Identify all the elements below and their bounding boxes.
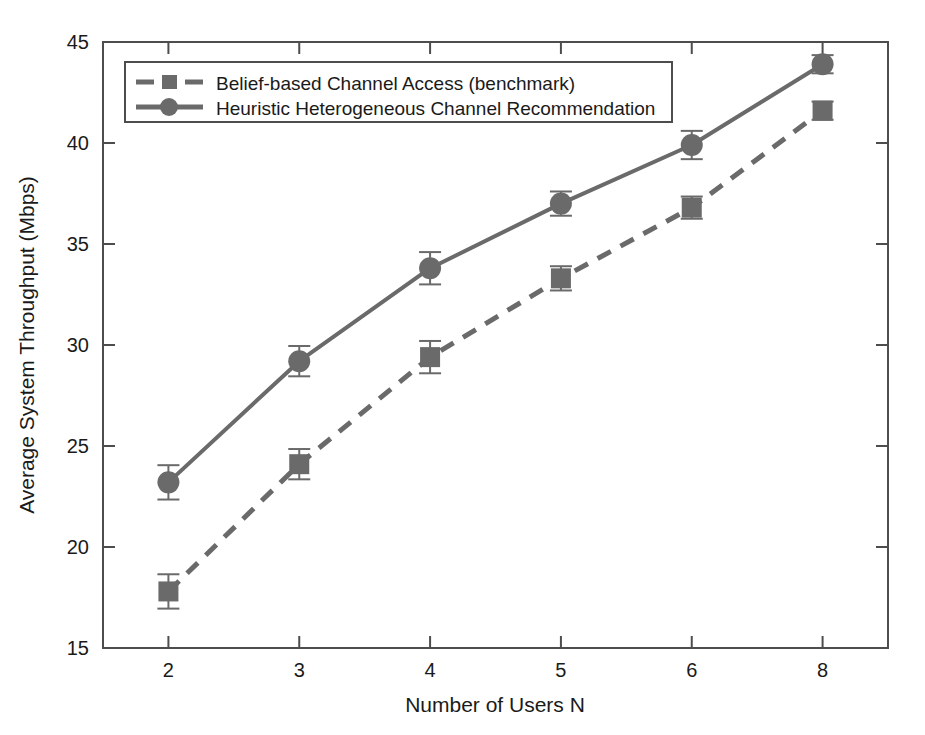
line-chart: 15202530354045 234568 Number of Users N … bbox=[0, 0, 925, 735]
data-series-layer bbox=[157, 53, 833, 608]
series-line bbox=[168, 64, 822, 482]
y-tick-label: 40 bbox=[67, 132, 89, 154]
circle-marker bbox=[288, 350, 310, 372]
chart-figure: 15202530354045 234568 Number of Users N … bbox=[0, 0, 925, 735]
chart-legend: Belief-based Channel Access (benchmark) … bbox=[125, 62, 672, 122]
series-line bbox=[168, 111, 822, 592]
y-tick-label: 15 bbox=[67, 637, 89, 659]
x-axis-title: Number of Users N bbox=[405, 693, 585, 716]
y-tick-label: 45 bbox=[67, 31, 89, 53]
circle-marker bbox=[681, 134, 703, 156]
y-tick-label: 25 bbox=[67, 435, 89, 457]
y-axis-tick-labels: 15202530354045 bbox=[67, 31, 89, 659]
y-tick-label: 30 bbox=[67, 334, 89, 356]
square-marker-icon bbox=[162, 75, 177, 89]
circle-marker bbox=[419, 257, 441, 279]
axes-frame bbox=[103, 42, 888, 648]
circle-marker bbox=[550, 193, 572, 215]
legend-label-heuristic: Heuristic Heterogeneous Channel Recommen… bbox=[216, 98, 655, 119]
square-marker bbox=[813, 101, 833, 121]
x-tick-label: 3 bbox=[294, 659, 305, 681]
circle-marker bbox=[157, 471, 179, 493]
square-marker bbox=[682, 198, 702, 218]
x-tick-label: 6 bbox=[686, 659, 697, 681]
legend-label-belief-based: Belief-based Channel Access (benchmark) bbox=[216, 73, 575, 94]
x-tick-label: 4 bbox=[425, 659, 436, 681]
x-tick-label: 8 bbox=[817, 659, 828, 681]
square-marker bbox=[420, 347, 440, 367]
x-tick-label: 5 bbox=[555, 659, 566, 681]
x-axis-tick-marks bbox=[168, 42, 822, 648]
square-marker bbox=[158, 581, 178, 601]
y-tick-label: 35 bbox=[67, 233, 89, 255]
square-marker bbox=[289, 454, 309, 474]
y-tick-label: 20 bbox=[67, 536, 89, 558]
y-axis-tick-marks bbox=[103, 42, 888, 648]
series-1 bbox=[157, 101, 833, 609]
x-axis-tick-labels: 234568 bbox=[163, 659, 828, 681]
circle-marker-icon bbox=[160, 98, 178, 116]
square-marker bbox=[551, 268, 571, 288]
x-tick-label: 2 bbox=[163, 659, 174, 681]
y-axis-title: Average System Throughput (Mbps) bbox=[15, 176, 38, 514]
circle-marker bbox=[812, 53, 834, 75]
